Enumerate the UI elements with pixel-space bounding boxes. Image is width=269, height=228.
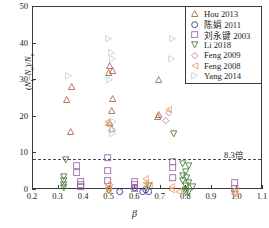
- y-tick-label: 10: [8, 147, 28, 157]
- legend-marker-icon: [188, 41, 202, 48]
- data-point: [155, 69, 162, 76]
- y-tick-mark: [32, 116, 36, 117]
- y-tick-mark: [32, 43, 36, 44]
- legend-marker-icon: [188, 52, 202, 59]
- data-point: [169, 168, 176, 175]
- chart-figure: (Nt–Nc)/Nc β 8.3倍 Hou 2013陈娟 2011刘永键 200…: [0, 0, 269, 228]
- data-point: [110, 111, 117, 118]
- data-point: [105, 28, 112, 35]
- y-tick-mark: [32, 189, 36, 190]
- threshold-annotation-label: 8.3倍: [224, 148, 244, 160]
- data-point: [65, 66, 72, 73]
- data-point: [108, 100, 115, 107]
- data-point: [77, 177, 84, 184]
- data-point: [165, 100, 172, 107]
- legend-marker-icon: [188, 62, 202, 69]
- y-axis-title: (Nt–Nc)/Nc: [23, 42, 35, 102]
- data-point: [175, 182, 182, 189]
- y-tick-label: 50: [8, 1, 28, 11]
- data-point: [105, 181, 112, 188]
- legend-marker-icon: [188, 10, 202, 17]
- data-point: [109, 48, 116, 55]
- legend-label: Li 2018: [202, 40, 231, 50]
- data-point: [73, 162, 80, 169]
- data-point: [168, 48, 175, 55]
- data-point: [146, 174, 153, 181]
- data-point: [169, 28, 176, 35]
- y-tick-label: 30: [8, 74, 28, 84]
- legend-marker-icon: [188, 21, 202, 28]
- data-point: [109, 88, 116, 95]
- legend-marker-icon: [188, 31, 202, 38]
- data-point: [104, 160, 111, 167]
- legend-item-7[interactable]: Yang 2014: [188, 71, 258, 81]
- y-tick-mark: [32, 79, 36, 80]
- data-point: [67, 122, 74, 129]
- x-tick-label: 0.4: [71, 191, 95, 201]
- x-axis-title: β: [0, 208, 269, 219]
- data-point: [182, 182, 189, 189]
- legend-item-6[interactable]: Feng 2008: [188, 60, 258, 70]
- y-tick-label: 40: [8, 38, 28, 48]
- legend-item-3[interactable]: 刘永键 2003: [188, 30, 258, 40]
- x-tick-mark: [58, 185, 59, 189]
- legend-label: 刘永键 2003: [202, 29, 250, 41]
- legend-item-4[interactable]: Li 2018: [188, 40, 258, 50]
- y-tick-mark: [32, 6, 36, 7]
- legend-marker-icon: [188, 72, 202, 79]
- x-tick-mark: [32, 185, 33, 189]
- data-point: [104, 148, 111, 155]
- x-tick-label: 0.3: [46, 191, 70, 201]
- legend: Hou 2013陈娟 2011刘永键 2003Li 2018Feng 2009F…: [185, 6, 262, 84]
- x-tick-label: 1.1: [250, 191, 269, 201]
- legend-label: Feng 2008: [202, 61, 241, 71]
- x-tick-mark: [211, 185, 212, 189]
- y-tick-mark: [32, 152, 36, 153]
- data-point: [116, 182, 123, 189]
- x-tick-mark: [262, 185, 263, 189]
- data-point: [60, 178, 67, 185]
- x-tick-label: 0.2: [20, 191, 44, 201]
- data-point: [63, 90, 70, 97]
- data-point: [169, 157, 176, 164]
- data-point: [170, 124, 177, 131]
- y-tick-label: 20: [8, 111, 28, 121]
- data-point: [131, 178, 138, 185]
- data-point: [62, 149, 69, 156]
- data-point: [231, 183, 238, 190]
- data-point: [109, 124, 116, 131]
- legend-label: Yang 2014: [202, 71, 241, 81]
- data-point: [168, 180, 175, 187]
- legend-item-5[interactable]: Feng 2009: [188, 50, 258, 60]
- data-point: [154, 107, 161, 114]
- x-tick-mark: [160, 185, 161, 189]
- legend-label: Feng 2009: [202, 50, 241, 60]
- x-tick-label: 0.9: [199, 191, 223, 201]
- data-point: [106, 70, 113, 77]
